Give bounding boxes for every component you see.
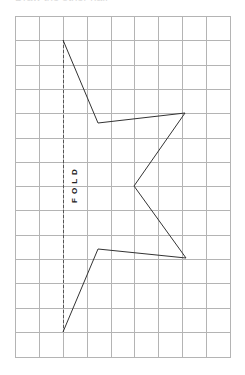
- grid: [15, 16, 231, 358]
- symmetry-grid-diagram: [0, 0, 245, 375]
- fold-label: FOLD: [70, 165, 79, 207]
